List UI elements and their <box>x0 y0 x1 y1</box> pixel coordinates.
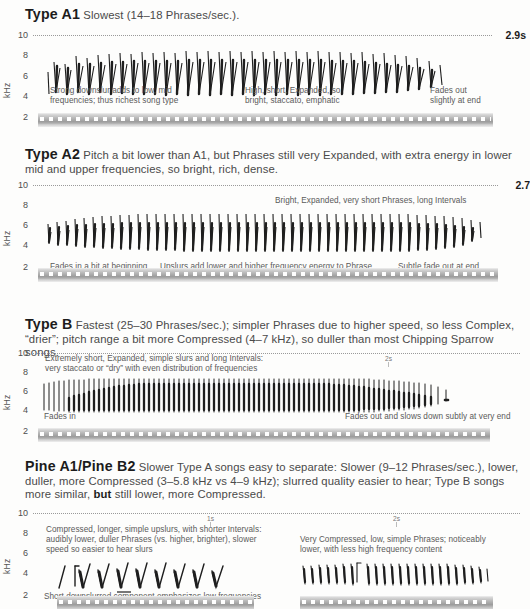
time-mark-label: 2s <box>393 515 400 522</box>
annotation-2: High, short, Expanded, so bright, stacca… <box>245 86 340 106</box>
spectrogram-type-b: kHz 10 8 6 4 2 2s Extremely short, Expan… <box>0 348 528 440</box>
time-mark-tick <box>388 362 389 367</box>
panel-description-line3-post: still lower, more Compressed. <box>111 488 265 500</box>
y-tick-10: 10 <box>10 30 28 40</box>
ruler-shadow-b <box>38 439 490 442</box>
duration-label: 2.7 <box>515 179 530 191</box>
ruler-ticks <box>40 272 496 276</box>
y-tick-4: 4 <box>10 405 28 415</box>
y-tick-4: 4 <box>10 240 28 250</box>
y-tick-8: 8 <box>10 528 28 538</box>
spectrogram-type-a2: kHz 10 8 6 4 2 2.7 Bright, Expanded, ver… <box>0 178 528 278</box>
ruler-ticks <box>302 600 491 604</box>
y-tick-2: 2 <box>10 590 28 600</box>
annotation-fade-out: Fades out and slows down subtly at very … <box>345 412 511 422</box>
time-mark-tick <box>396 522 397 527</box>
y-tick-10: 10 <box>10 348 28 358</box>
time-mark-2s: 2s <box>393 515 400 527</box>
annotation-top: Bright, Expanded, very short Phrases, lo… <box>275 196 466 206</box>
y-tick-6: 6 <box>10 71 28 81</box>
annotation-3: Fades out slightly at end <box>430 86 481 106</box>
top-dotted-line <box>33 513 520 515</box>
panel-heading-pine: Pine A1/Pine B2 Slower Type A songs easy… <box>25 460 520 502</box>
time-mark-2s: 2s <box>385 355 392 367</box>
y-tick-6: 6 <box>10 386 28 396</box>
waveform-trace-pine-a1 <box>55 560 235 596</box>
panel-heading-type-a2: Type A2 Pitch a bit lower than A1, but P… <box>25 148 520 176</box>
time-mark-label: 2s <box>385 355 392 362</box>
y-tick-2: 2 <box>10 112 28 122</box>
y-tick-8: 8 <box>10 200 28 210</box>
time-ruler-bar-pine-a1 <box>57 596 254 609</box>
annotation-pine-a1: Compressed, longer, simple upslurs, with… <box>46 525 261 555</box>
panel-description: Pitch a bit lower than A1, but Phrases s… <box>25 149 512 175</box>
annotation-1: Strong downslur adds to low, mid frequen… <box>50 86 178 106</box>
panel-description-line1: Slower Type A songs easy to separate: Sl… <box>139 461 485 473</box>
panel-heading-type-a1: Type A1 Slowest (14–18 Phrases/sec.). <box>25 8 520 23</box>
y-tick-10: 10 <box>10 180 28 190</box>
spectrogram-pine: kHz 10 8 6 4 2 1s 2s Compressed, longer,… <box>0 508 528 606</box>
time-ruler-bar-pine-b2 <box>300 596 493 609</box>
y-tick-6: 6 <box>10 548 28 558</box>
panel-title: Type A2 <box>25 146 80 162</box>
y-tick-10: 10 <box>10 508 28 518</box>
y-tick-8: 8 <box>10 367 28 377</box>
panel-description-line1: Fastest (25–30 Phrases/sec.); simpler Ph… <box>76 319 514 331</box>
y-tick-2: 2 <box>10 262 28 272</box>
ruler-shadow-a1 <box>38 124 493 127</box>
panel-title: Pine A1/Pine B2 <box>25 458 136 474</box>
ruler-ticks <box>40 432 488 436</box>
ruler-shadow-a2 <box>38 279 498 282</box>
y-tick-4: 4 <box>10 568 28 578</box>
ruler-ticks <box>59 600 252 604</box>
panel-description: Slowest (14–18 Phrases/sec.). <box>83 9 239 21</box>
annotation-top: Extremely short, Expanded, simple slurs … <box>45 354 263 374</box>
waveform-trace-pine-b2 <box>300 560 495 592</box>
panel-description-emphasis: but <box>94 488 112 500</box>
y-tick-8: 8 <box>10 50 28 60</box>
duration-label: 2.9s <box>506 29 526 41</box>
top-dotted-line <box>33 35 492 37</box>
y-tick-6: 6 <box>10 220 28 230</box>
annotation-pine-b2: Very Compressed, low, simple Phrases; no… <box>300 535 486 555</box>
ruler-ticks <box>40 117 491 121</box>
top-dotted-line <box>33 185 498 187</box>
waveform-trace <box>40 376 490 416</box>
time-mark-label: 1s <box>207 515 214 522</box>
panel-title: Type A1 <box>25 6 80 22</box>
y-tick-4: 4 <box>10 91 28 101</box>
panel-title: Type B <box>25 316 72 332</box>
y-tick-2: 2 <box>10 426 28 436</box>
annotation-fade-in: Fades in <box>44 412 76 422</box>
waveform-trace <box>42 206 492 258</box>
